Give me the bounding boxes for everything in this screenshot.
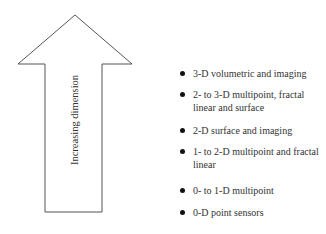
list-item-label: 1- to 2-D multipoint and fractal linear: [193, 145, 325, 171]
list-item-label: 3-D volumetric and imaging: [193, 67, 325, 80]
up-arrow-icon: [0, 0, 160, 234]
bullet-icon: [180, 210, 185, 215]
list-item-label: 0-D point sensors: [193, 206, 325, 219]
bullet-icon: [180, 92, 185, 97]
list-item-label: 0- to 1-D multipoint: [193, 184, 325, 197]
bullet-icon: [180, 71, 185, 76]
bullet-icon: [180, 149, 185, 154]
list-item-label: 2- to 3-D multipoint, fractal linear and…: [193, 88, 325, 114]
bullet-icon: [180, 128, 185, 133]
list-item-label: 2-D surface and imaging: [193, 124, 325, 137]
bullet-icon: [180, 188, 185, 193]
arrow-label: Increasing dimension: [69, 75, 80, 165]
